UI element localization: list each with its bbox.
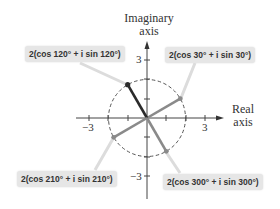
leader-line-300 — [166, 152, 180, 173]
imaginary-axis-title: Imaginary axis — [117, 12, 181, 38]
x-tick-label-neg3: −3 — [82, 121, 94, 133]
point-300 — [164, 149, 169, 154]
y-tick-label-3: 3 — [136, 53, 142, 65]
vector-210 — [114, 118, 147, 137]
y-tick-label-neg3: −3 — [130, 170, 142, 182]
imaginary-axis-arrow-icon — [145, 41, 150, 49]
vector-120 — [128, 85, 147, 118]
real-axis-arrow-icon — [216, 116, 224, 121]
vector-30 — [147, 99, 180, 118]
real-axis-title: Real axis — [226, 103, 260, 129]
label-300: 2(cos 300° + i sin 300°) — [163, 174, 263, 190]
leader-line-210 — [95, 137, 114, 170]
label-30: 2(cos 30° + i sin 30°) — [165, 47, 255, 63]
leader-line-120 — [80, 63, 128, 85]
label-210: 2(cos 210° + i sin 210°) — [17, 171, 117, 187]
x-tick-label-3: 3 — [202, 121, 208, 133]
point-210 — [111, 135, 116, 140]
point-30 — [178, 96, 183, 101]
label-120: 2(cos 120° + i sin 120°) — [25, 46, 125, 62]
real-axis-title-line2: axis — [226, 116, 260, 129]
imaginary-axis-title-line2: axis — [117, 25, 181, 38]
point-120 — [125, 82, 130, 87]
vector-300 — [147, 118, 166, 151]
leader-line-30 — [181, 63, 195, 98]
